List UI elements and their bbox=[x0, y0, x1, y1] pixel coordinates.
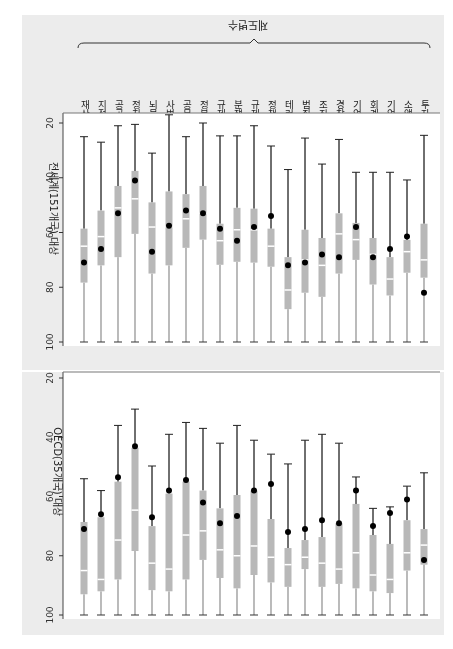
y-tick-label: 80 bbox=[46, 281, 56, 293]
korea-point bbox=[353, 224, 359, 230]
box bbox=[285, 548, 292, 587]
korea-point bbox=[217, 520, 223, 526]
korea-point bbox=[285, 529, 291, 535]
korea-point bbox=[200, 210, 206, 216]
korea-point bbox=[217, 226, 223, 232]
korea-point bbox=[166, 488, 172, 494]
box bbox=[81, 229, 88, 283]
box bbox=[336, 213, 343, 273]
box bbox=[387, 257, 394, 295]
box bbox=[251, 491, 258, 575]
korea-point bbox=[268, 481, 274, 487]
korea-point bbox=[353, 488, 359, 494]
boxplot-figure: 제도변수 전세계(151개국) 대상 OECD(35개국) 대상 재산권지적재산… bbox=[0, 0, 453, 649]
korea-point bbox=[268, 213, 274, 219]
box bbox=[132, 448, 139, 551]
box bbox=[319, 537, 326, 587]
box bbox=[115, 482, 122, 580]
korea-point bbox=[421, 290, 427, 296]
box bbox=[404, 520, 411, 570]
korea-point bbox=[370, 254, 376, 260]
y-tick-label: 20 bbox=[46, 372, 56, 384]
box bbox=[149, 202, 156, 273]
box bbox=[149, 526, 156, 590]
y-tick-label: 20 bbox=[46, 117, 56, 129]
box bbox=[268, 519, 275, 582]
korea-point bbox=[404, 496, 410, 502]
korea-point bbox=[387, 246, 393, 252]
korea-point bbox=[336, 254, 342, 260]
y-tick-label: 60 bbox=[46, 491, 56, 503]
korea-point bbox=[319, 251, 325, 257]
box bbox=[370, 535, 377, 591]
box bbox=[387, 544, 394, 593]
box bbox=[268, 229, 275, 267]
korea-point bbox=[404, 234, 410, 240]
korea-point bbox=[132, 177, 138, 183]
korea-point bbox=[234, 238, 240, 244]
korea-point bbox=[81, 260, 87, 266]
korea-point bbox=[336, 520, 342, 526]
korea-point bbox=[149, 514, 155, 520]
korea-point bbox=[421, 557, 427, 563]
box bbox=[336, 523, 343, 584]
box bbox=[319, 238, 326, 297]
korea-point bbox=[370, 523, 376, 529]
y-tick-label: 40 bbox=[46, 431, 56, 443]
box bbox=[353, 504, 360, 588]
korea-point bbox=[200, 499, 206, 505]
box bbox=[81, 522, 88, 594]
korea-point bbox=[251, 224, 257, 230]
group-bracket bbox=[78, 39, 430, 48]
y-tick-label: 60 bbox=[46, 227, 56, 239]
korea-point bbox=[183, 208, 189, 214]
korea-point bbox=[183, 477, 189, 483]
box bbox=[183, 194, 190, 248]
korea-point bbox=[98, 246, 104, 252]
korea-point bbox=[115, 210, 121, 216]
box bbox=[115, 186, 122, 257]
box bbox=[302, 540, 309, 569]
korea-point bbox=[115, 474, 121, 480]
korea-point bbox=[302, 260, 308, 266]
y-tick-label: 80 bbox=[46, 550, 56, 562]
korea-point bbox=[251, 488, 257, 494]
box bbox=[251, 209, 258, 263]
box bbox=[166, 494, 173, 592]
korea-point bbox=[234, 513, 240, 519]
box bbox=[217, 508, 224, 578]
y-tick-label: 40 bbox=[46, 172, 56, 184]
box bbox=[234, 208, 241, 262]
korea-point bbox=[149, 249, 155, 255]
box bbox=[370, 238, 377, 285]
korea-point bbox=[319, 517, 325, 523]
korea-point bbox=[166, 223, 172, 229]
chart-canvas: 2040608010020406080100 bbox=[0, 0, 453, 649]
korea-point bbox=[98, 511, 104, 517]
korea-point bbox=[302, 526, 308, 532]
box bbox=[404, 240, 411, 273]
box bbox=[183, 482, 190, 580]
korea-point bbox=[387, 510, 393, 516]
korea-point bbox=[81, 526, 87, 532]
box bbox=[98, 211, 105, 266]
korea-point bbox=[132, 443, 138, 449]
korea-point bbox=[285, 262, 291, 268]
y-tick-label: 100 bbox=[46, 333, 56, 350]
box bbox=[234, 495, 241, 588]
y-tick-label: 100 bbox=[46, 606, 56, 623]
box bbox=[421, 224, 428, 278]
